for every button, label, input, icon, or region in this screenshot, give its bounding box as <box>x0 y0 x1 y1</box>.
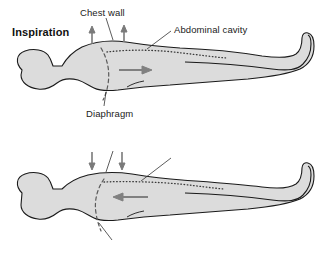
expiration-illustration <box>0 127 329 254</box>
leader-line-chest-wall-inspiration <box>106 18 113 40</box>
annotation-chest-wall-inspiration: Chest wall <box>80 7 125 18</box>
chest-wall-arrow-down-left <box>89 152 95 170</box>
chest-wall-arrow-up-right <box>121 25 127 42</box>
annotation-diaphragm-inspiration: Diaphragm <box>86 108 133 119</box>
body-silhouette-inspiration <box>17 33 314 91</box>
panel-expiration: Expiration Chest wall Abdominal cavity D… <box>0 127 329 254</box>
chest-wall-arrow-up-left <box>89 26 95 44</box>
body-silhouette-expiration <box>17 163 314 221</box>
respiration-figure: Inspiration Chest wall Abdominal cavity … <box>0 0 329 254</box>
panel-inspiration: Inspiration Chest wall Abdominal cavity … <box>0 0 329 127</box>
leader-line-chest-wall-expiration <box>106 151 113 172</box>
phase-label-inspiration: Inspiration <box>12 26 69 38</box>
inspiration-illustration <box>0 0 329 127</box>
annotation-abdominal-cavity-inspiration: Abdominal cavity <box>174 24 247 35</box>
chest-wall-arrow-down-right <box>119 152 125 170</box>
